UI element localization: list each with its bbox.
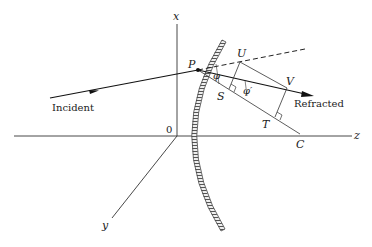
refracted-arrow-icon bbox=[301, 91, 314, 97]
label-T: T bbox=[262, 118, 271, 131]
refraction-diagram: x z y 0 P U V S T C φ φ′ Incident Refrac… bbox=[0, 0, 372, 247]
line-US bbox=[229, 62, 240, 89]
line-VT bbox=[275, 88, 287, 117]
y-axis bbox=[112, 136, 177, 218]
label-U: U bbox=[237, 47, 247, 60]
incident-ray bbox=[50, 70, 198, 98]
origin-label: 0 bbox=[166, 124, 172, 135]
incident-label: Incident bbox=[52, 102, 94, 113]
label-V: V bbox=[286, 75, 295, 88]
label-S: S bbox=[217, 90, 225, 103]
z-axis-label: z bbox=[353, 129, 360, 142]
label-C: C bbox=[296, 138, 305, 151]
point-P bbox=[196, 68, 200, 72]
angle-phi-prime-label: φ′ bbox=[243, 85, 253, 96]
incident-arrow-icon bbox=[89, 90, 99, 94]
label-P: P bbox=[187, 58, 196, 71]
refracted-label: Refracted bbox=[294, 98, 344, 109]
y-axis-label: y bbox=[101, 219, 109, 232]
x-axis-label: x bbox=[173, 10, 180, 23]
right-angle-T-icon bbox=[277, 112, 282, 120]
angle-phi-label: φ bbox=[213, 70, 220, 81]
